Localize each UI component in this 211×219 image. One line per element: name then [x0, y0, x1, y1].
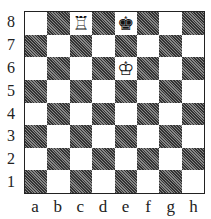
file-label-f: f	[137, 197, 159, 217]
square-a4[interactable]	[25, 103, 47, 126]
square-a5[interactable]	[25, 80, 47, 103]
square-d2[interactable]	[92, 148, 114, 171]
square-a3[interactable]	[25, 125, 47, 148]
file-label-a: a	[24, 197, 46, 217]
square-b4[interactable]	[47, 103, 69, 126]
square-h2[interactable]	[182, 148, 204, 171]
square-e2[interactable]	[115, 148, 137, 171]
square-c8[interactable]: ♖	[70, 12, 92, 35]
square-h1[interactable]	[182, 170, 204, 193]
rank-label-1: 1	[4, 173, 18, 191]
square-f7[interactable]	[137, 35, 159, 58]
square-f6[interactable]	[137, 57, 159, 80]
rank-label-8: 8	[4, 13, 18, 31]
white-rook-icon[interactable]: ♖	[72, 14, 89, 33]
file-label-b: b	[47, 197, 69, 217]
rank-label-7: 7	[4, 36, 18, 54]
square-d4[interactable]	[92, 103, 114, 126]
square-c7[interactable]	[70, 35, 92, 58]
rank-label-3: 3	[4, 127, 18, 145]
file-label-d: d	[92, 197, 114, 217]
square-d8[interactable]	[92, 12, 114, 35]
square-h6[interactable]	[182, 57, 204, 80]
rank-label-6: 6	[4, 59, 18, 77]
square-f4[interactable]	[137, 103, 159, 126]
square-b8[interactable]	[47, 12, 69, 35]
square-c3[interactable]	[70, 125, 92, 148]
square-h4[interactable]	[182, 103, 204, 126]
square-a7[interactable]	[25, 35, 47, 58]
square-g1[interactable]	[159, 170, 181, 193]
square-g3[interactable]	[159, 125, 181, 148]
square-b3[interactable]	[47, 125, 69, 148]
square-h5[interactable]	[182, 80, 204, 103]
square-g6[interactable]	[159, 57, 181, 80]
square-e4[interactable]	[115, 103, 137, 126]
square-h7[interactable]	[182, 35, 204, 58]
square-c1[interactable]	[70, 170, 92, 193]
square-e1[interactable]	[115, 170, 137, 193]
square-f1[interactable]	[137, 170, 159, 193]
file-label-c: c	[69, 197, 91, 217]
file-label-e: e	[115, 197, 137, 217]
square-e6[interactable]: ♔	[115, 57, 137, 80]
square-b1[interactable]	[47, 170, 69, 193]
square-f5[interactable]	[137, 80, 159, 103]
square-a6[interactable]	[25, 57, 47, 80]
square-d3[interactable]	[92, 125, 114, 148]
square-h8[interactable]	[182, 12, 204, 35]
file-label-h: h	[182, 197, 204, 217]
square-b7[interactable]	[47, 35, 69, 58]
square-a8[interactable]	[25, 12, 47, 35]
square-g8[interactable]	[159, 12, 181, 35]
square-d7[interactable]	[92, 35, 114, 58]
rank-label-4: 4	[4, 105, 18, 123]
chess-board: ♖♚♔	[24, 11, 205, 194]
square-d5[interactable]	[92, 80, 114, 103]
square-e7[interactable]	[115, 35, 137, 58]
square-b5[interactable]	[47, 80, 69, 103]
square-g5[interactable]	[159, 80, 181, 103]
square-f8[interactable]	[137, 12, 159, 35]
square-g2[interactable]	[159, 148, 181, 171]
square-g4[interactable]	[159, 103, 181, 126]
square-d6[interactable]	[92, 57, 114, 80]
square-c5[interactable]	[70, 80, 92, 103]
square-e5[interactable]	[115, 80, 137, 103]
square-c6[interactable]	[70, 57, 92, 80]
square-c4[interactable]	[70, 103, 92, 126]
square-d1[interactable]	[92, 170, 114, 193]
square-b2[interactable]	[47, 148, 69, 171]
white-king-icon[interactable]: ♔	[117, 59, 134, 78]
square-f3[interactable]	[137, 125, 159, 148]
square-e3[interactable]	[115, 125, 137, 148]
square-a2[interactable]	[25, 148, 47, 171]
square-f2[interactable]	[137, 148, 159, 171]
rank-label-2: 2	[4, 150, 18, 168]
square-g7[interactable]	[159, 35, 181, 58]
square-e8[interactable]: ♚	[115, 12, 137, 35]
black-king-icon[interactable]: ♚	[117, 14, 134, 33]
square-a1[interactable]	[25, 170, 47, 193]
square-b6[interactable]	[47, 57, 69, 80]
square-c2[interactable]	[70, 148, 92, 171]
file-label-g: g	[160, 197, 182, 217]
rank-label-5: 5	[4, 82, 18, 100]
square-h3[interactable]	[182, 125, 204, 148]
